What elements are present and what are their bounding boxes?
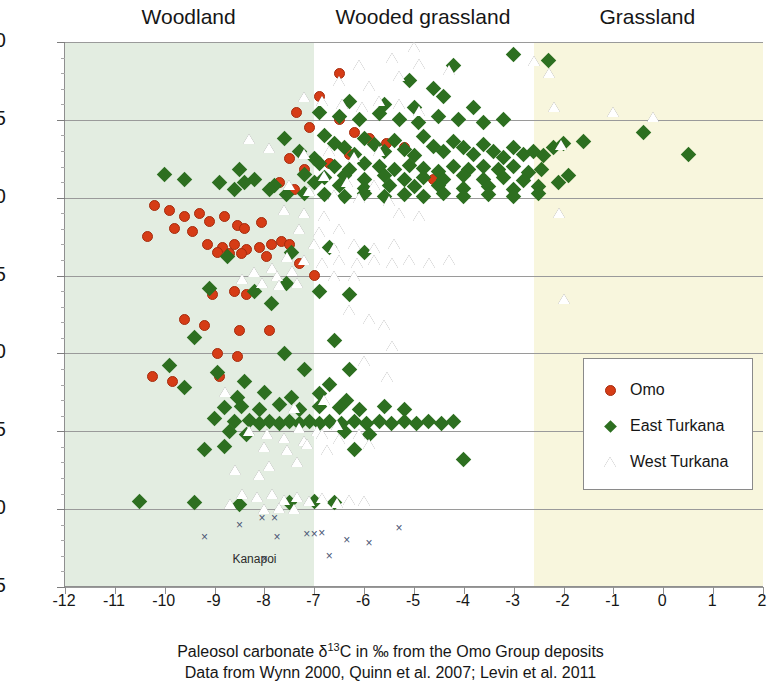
- legend-item-omo[interactable]: Omo: [598, 379, 665, 401]
- y-tick-major: [57, 509, 65, 510]
- y-tick-minor: [61, 182, 65, 183]
- y-tick-minor: [61, 525, 65, 526]
- x-tick-label: -7: [293, 592, 333, 610]
- caption-line-1-superscript: 13: [327, 641, 339, 653]
- y-tick-minor: [61, 322, 65, 323]
- y-tick-minor: [61, 104, 65, 105]
- y-tick-label: 2.0: [0, 185, 6, 208]
- y-tick-minor: [61, 478, 65, 479]
- y-tick-major: [57, 353, 65, 354]
- y-tick-major: [57, 431, 65, 432]
- y-tick-minor: [61, 291, 65, 292]
- y-tick-label: 1.0: [0, 29, 6, 52]
- legend-item-west-turkana[interactable]: West Turkana: [598, 451, 728, 473]
- y-tick-minor: [61, 540, 65, 541]
- legend-marker-diamond-icon: [598, 422, 622, 431]
- y-tick-label: 1.5: [0, 107, 6, 130]
- y-tick-minor: [61, 244, 65, 245]
- axis-bottom-line: [65, 586, 763, 587]
- y-tick-label: 3.0: [0, 340, 6, 363]
- y-tick-major: [57, 120, 65, 121]
- x-tick-label: -12: [44, 592, 84, 610]
- y-tick-minor: [61, 89, 65, 90]
- legend-item-east-turkana[interactable]: East Turkana: [598, 415, 724, 437]
- y-tick-minor: [61, 167, 65, 168]
- plot-area: ××××××××××××× Kanapoi: [64, 42, 763, 587]
- gridline-y: [65, 120, 763, 121]
- legend-label: West Turkana: [630, 453, 728, 471]
- gridline-y: [65, 509, 763, 510]
- x-tick-label: 0: [642, 592, 682, 610]
- caption-line-1: Paleosol carbonate δ13C in ‰ from the Om…: [0, 641, 781, 661]
- axis-top-line: [65, 42, 763, 43]
- caption-line-1-pre: Paleosol carbonate δ: [177, 643, 327, 660]
- y-tick-minor: [61, 385, 65, 386]
- x-tick-label: -5: [393, 592, 433, 610]
- x-tick-label: -1: [592, 592, 632, 610]
- y-tick-major: [57, 587, 65, 588]
- biome-label-wooded-grassland: Wooded grassland: [313, 2, 532, 32]
- y-tick-minor: [61, 260, 65, 261]
- caption-line-1-post: C in ‰ from the Omo Group deposits: [340, 643, 604, 660]
- gridline-y: [65, 353, 763, 354]
- y-tick-minor: [61, 447, 65, 448]
- biome-band-grassland: [534, 42, 763, 587]
- y-tick-minor: [61, 229, 65, 230]
- y-tick-label: 4.5: [0, 574, 6, 597]
- y-tick-minor: [61, 338, 65, 339]
- x-tick-label: -11: [94, 592, 134, 610]
- y-tick-minor: [61, 307, 65, 308]
- caption-line-2: Data from Wynn 2000, Quinn et al. 2007; …: [0, 664, 781, 682]
- y-tick-minor: [61, 571, 65, 572]
- x-tick-label: -3: [493, 592, 533, 610]
- y-tick-minor: [61, 416, 65, 417]
- legend-label: Omo: [630, 381, 665, 399]
- x-tick-label: -2: [543, 592, 583, 610]
- biome-band-woodland: [65, 42, 314, 587]
- x-tick-label: 2: [742, 592, 781, 610]
- biome-band-wooded-grassland: [314, 42, 533, 587]
- x-tick-label: -8: [243, 592, 283, 610]
- y-tick-minor: [61, 369, 65, 370]
- x-tick-label: -10: [144, 592, 184, 610]
- gridline-y: [65, 276, 763, 277]
- y-tick-major: [57, 198, 65, 199]
- legend-marker-triangle-icon: [598, 457, 622, 467]
- y-tick-major: [57, 42, 65, 43]
- y-tick-minor: [61, 135, 65, 136]
- legend-marker-circle-icon: [598, 385, 622, 396]
- scatter-figure: WoodlandWooded grasslandGrassland ××××××…: [0, 0, 781, 686]
- y-tick-minor: [61, 151, 65, 152]
- gridline-y: [65, 198, 763, 199]
- biome-label-grassland: Grassland: [533, 2, 762, 32]
- legend-label: East Turkana: [630, 417, 724, 435]
- biome-label-woodland: Woodland: [64, 2, 313, 32]
- y-tick-minor: [61, 73, 65, 74]
- y-tick-label: 3.5: [0, 418, 6, 441]
- x-tick-label: -6: [343, 592, 383, 610]
- y-tick-minor: [61, 400, 65, 401]
- y-tick-minor: [61, 213, 65, 214]
- y-tick-major: [57, 276, 65, 277]
- y-tick-minor: [61, 494, 65, 495]
- chart-legend[interactable]: OmoEast TurkanaWest Turkana: [583, 358, 753, 490]
- biome-header-labels: WoodlandWooded grasslandGrassland: [0, 0, 781, 36]
- annotation-kanapoi: Kanapoi: [232, 552, 276, 566]
- x-tick-label: 1: [692, 592, 732, 610]
- y-tick-minor: [61, 462, 65, 463]
- y-tick-minor: [61, 556, 65, 557]
- y-tick-label: 4.0: [0, 496, 6, 519]
- y-tick-label: 2.5: [0, 263, 6, 286]
- x-tick-label: -9: [194, 592, 234, 610]
- y-tick-minor: [61, 58, 65, 59]
- x-tick-label: -4: [443, 592, 483, 610]
